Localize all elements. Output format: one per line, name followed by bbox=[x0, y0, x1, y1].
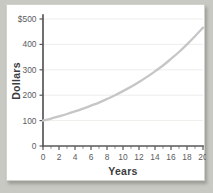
y-tick-label: 200 bbox=[23, 90, 37, 100]
y-tick-label: 100 bbox=[23, 116, 37, 126]
y-tick-label: 300 bbox=[23, 65, 37, 75]
x-tick-label: 12 bbox=[134, 152, 144, 162]
x-tick-label: 10 bbox=[118, 152, 128, 162]
x-tick-label: 14 bbox=[150, 152, 160, 162]
x-tick-label: 8 bbox=[105, 152, 110, 162]
x-axis-tick-labels: 02468101214161820 bbox=[41, 152, 206, 162]
y-tick-label: 400 bbox=[23, 39, 37, 49]
line-chart-svg: 0100200300400$500 02468101214161820 Year… bbox=[7, 5, 206, 182]
x-tick-label: 2 bbox=[57, 152, 62, 162]
chart-card: 0100200300400$500 02468101214161820 Year… bbox=[6, 4, 205, 181]
y-axis-title: Dollars bbox=[10, 62, 22, 100]
x-tick-label: 16 bbox=[166, 152, 176, 162]
y-tick-label: 0 bbox=[32, 141, 37, 151]
x-tick-label: 0 bbox=[41, 152, 46, 162]
data-series-line bbox=[43, 28, 203, 121]
gridlines-group bbox=[43, 19, 203, 121]
x-tick-label: 20 bbox=[198, 152, 206, 162]
x-tick-label: 18 bbox=[182, 152, 192, 162]
x-tick-label: 4 bbox=[73, 152, 78, 162]
chart-plot-area: 0100200300400$500 02468101214161820 Year… bbox=[7, 5, 204, 180]
y-tick-label: $500 bbox=[18, 14, 37, 24]
x-tick-label: 6 bbox=[89, 152, 94, 162]
x-axis-title: Years bbox=[108, 165, 138, 177]
